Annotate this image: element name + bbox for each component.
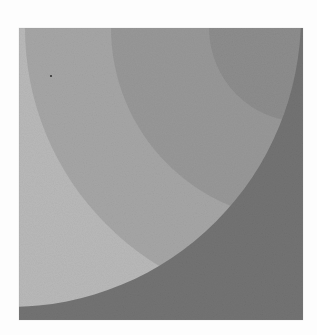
speck <box>50 75 52 77</box>
abstract-arc-artwork <box>0 0 317 335</box>
